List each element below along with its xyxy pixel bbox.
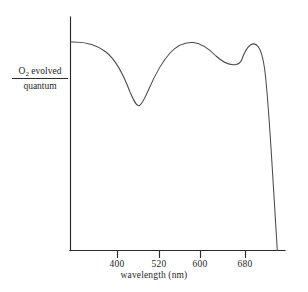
y-axis-denominator: quantum: [12, 79, 68, 92]
x-tick-label-520: 520: [152, 259, 167, 269]
x-tick-label-400: 400: [110, 259, 125, 269]
plot-area: [0, 0, 308, 292]
action-spectrum-curve: [71, 42, 277, 251]
x-tick-label-600: 600: [193, 259, 208, 269]
y-axis-numerator-rest: evolved: [29, 66, 61, 76]
x-tick-label-680: 680: [238, 259, 253, 269]
y-axis-label: O2 evolved quantum: [12, 66, 68, 92]
y-axis-numerator: O2 evolved: [12, 66, 68, 79]
x-axis-title: wavelength (nm): [0, 270, 308, 280]
figure-root: O2 evolved quantum 400 520 600 680 wavel…: [0, 0, 308, 292]
